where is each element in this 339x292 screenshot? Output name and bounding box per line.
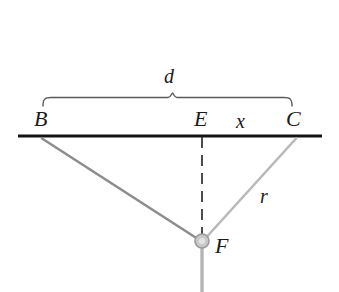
label-r: r [260, 186, 268, 206]
label-x: x [236, 111, 245, 131]
label-point-f: F [215, 235, 228, 257]
node-f-inner [199, 238, 205, 244]
label-point-c: C [286, 108, 301, 130]
brace-d [43, 93, 292, 106]
segment-cf-radius [203, 139, 296, 242]
label-d: d [164, 66, 174, 86]
label-point-e: E [194, 108, 207, 130]
segment-bf [42, 139, 201, 242]
brace-path [43, 93, 292, 106]
diagram-canvas [0, 0, 339, 292]
label-point-b: B [34, 108, 47, 130]
geometry-diagram: d B E x C r F [0, 0, 339, 292]
